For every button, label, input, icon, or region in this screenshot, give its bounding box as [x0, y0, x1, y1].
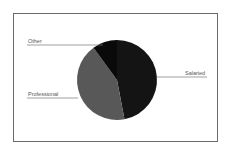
pie-slices	[77, 40, 157, 120]
label-other: Other	[28, 39, 42, 45]
label-salaried: Salaried	[185, 71, 205, 77]
label-professional: Professional	[28, 92, 58, 98]
pie-slice-salaried	[117, 40, 157, 119]
